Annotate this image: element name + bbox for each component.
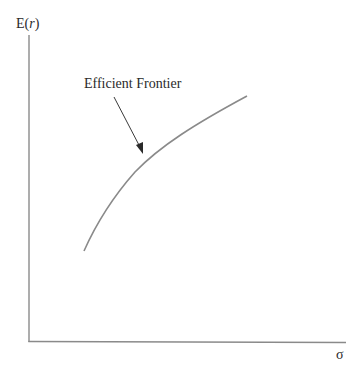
y-axis-label: E(r) <box>16 16 39 32</box>
efficient-frontier-label: Efficient Frontier <box>84 76 181 92</box>
annotation-arrow <box>114 97 140 147</box>
x-axis-label: σ <box>336 347 344 363</box>
y-axis-label-pre: E( <box>16 16 29 31</box>
x-axis <box>28 342 346 343</box>
arrowhead-icon <box>136 142 143 154</box>
efficient-frontier-curve <box>84 96 247 251</box>
y-axis-label-post: ) <box>35 16 40 31</box>
diagram-canvas <box>0 0 361 367</box>
